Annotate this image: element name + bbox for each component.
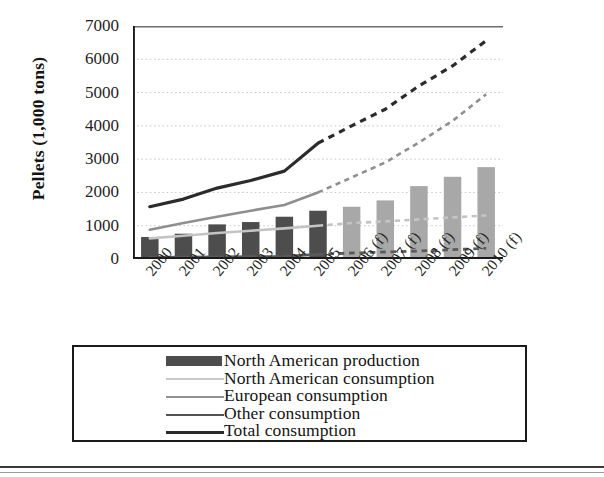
legend-swatch xyxy=(162,370,224,388)
legend-line-swatch xyxy=(166,378,224,380)
chart-figure: Pellets (1,000 tons) 0100020003000400050… xyxy=(0,0,604,477)
legend-line-swatch xyxy=(166,396,224,398)
y-tick-label: 0 xyxy=(61,249,119,269)
legend-line-swatch xyxy=(166,431,224,434)
y-tick-label: 6000 xyxy=(61,49,119,69)
legend-box: North American productionNorth American … xyxy=(72,345,527,442)
legend-entry-list: North American productionNorth American … xyxy=(162,352,435,440)
series-line-forecast xyxy=(318,41,486,144)
y-tick-label: 7000 xyxy=(61,16,119,36)
plot-svg xyxy=(133,26,503,259)
legend-swatch xyxy=(162,352,224,370)
plot-area xyxy=(133,26,503,259)
y-axis-title: Pellets (1,000 tons) xyxy=(28,29,49,229)
page-divider-rule-secondary xyxy=(0,472,604,473)
legend-bar-swatch xyxy=(166,356,222,367)
legend-swatch xyxy=(162,405,224,423)
page-divider-rule xyxy=(0,466,604,468)
y-tick-label: 4000 xyxy=(61,116,119,136)
legend-swatch xyxy=(162,422,224,440)
legend-line-swatch xyxy=(166,414,224,416)
legend-entry-label: North American production xyxy=(224,352,420,370)
y-tick-label: 1000 xyxy=(61,216,119,236)
series-line-solid xyxy=(150,143,318,207)
legend-entry[interactable]: Total consumption xyxy=(162,422,435,440)
y-tick-label: 2000 xyxy=(61,182,119,202)
legend-swatch xyxy=(162,387,224,405)
y-tick-label: 3000 xyxy=(61,149,119,169)
legend-entry[interactable]: North American production xyxy=(162,352,435,370)
y-tick-label: 5000 xyxy=(61,83,119,103)
legend-entry-label: Total consumption xyxy=(224,422,356,440)
